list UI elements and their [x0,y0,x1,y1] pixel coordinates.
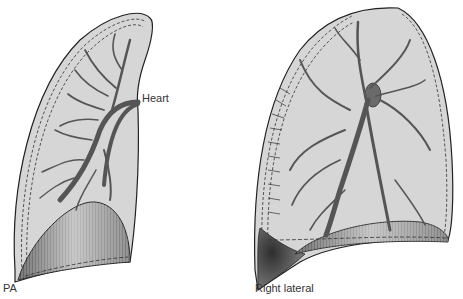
pa-lung [14,13,152,282]
pa-caption: PA [3,282,17,294]
diagram-canvas [0,0,463,299]
heart-annotation: Heart [142,92,169,104]
lateral-caption: Right lateral [255,282,314,294]
lateral-lung [255,8,453,290]
